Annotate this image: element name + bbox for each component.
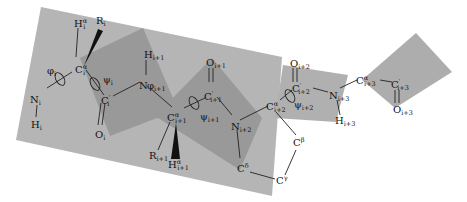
atom-H-i+3: Hi+3: [335, 115, 355, 128]
atom-Cprime-i: C′i: [101, 94, 111, 108]
peptide-diagram: Ni Hi Cαi Hαi Ri C′i Oi N Hi+1 Cαi+1 Ri+…: [0, 0, 467, 202]
atom-C-gamma: Cγ: [276, 174, 288, 186]
atom-C-beta: Cβ: [293, 136, 305, 148]
atom-O-i+3: Oi+3: [393, 104, 413, 117]
plane-peptide-i+3: [362, 33, 452, 108]
